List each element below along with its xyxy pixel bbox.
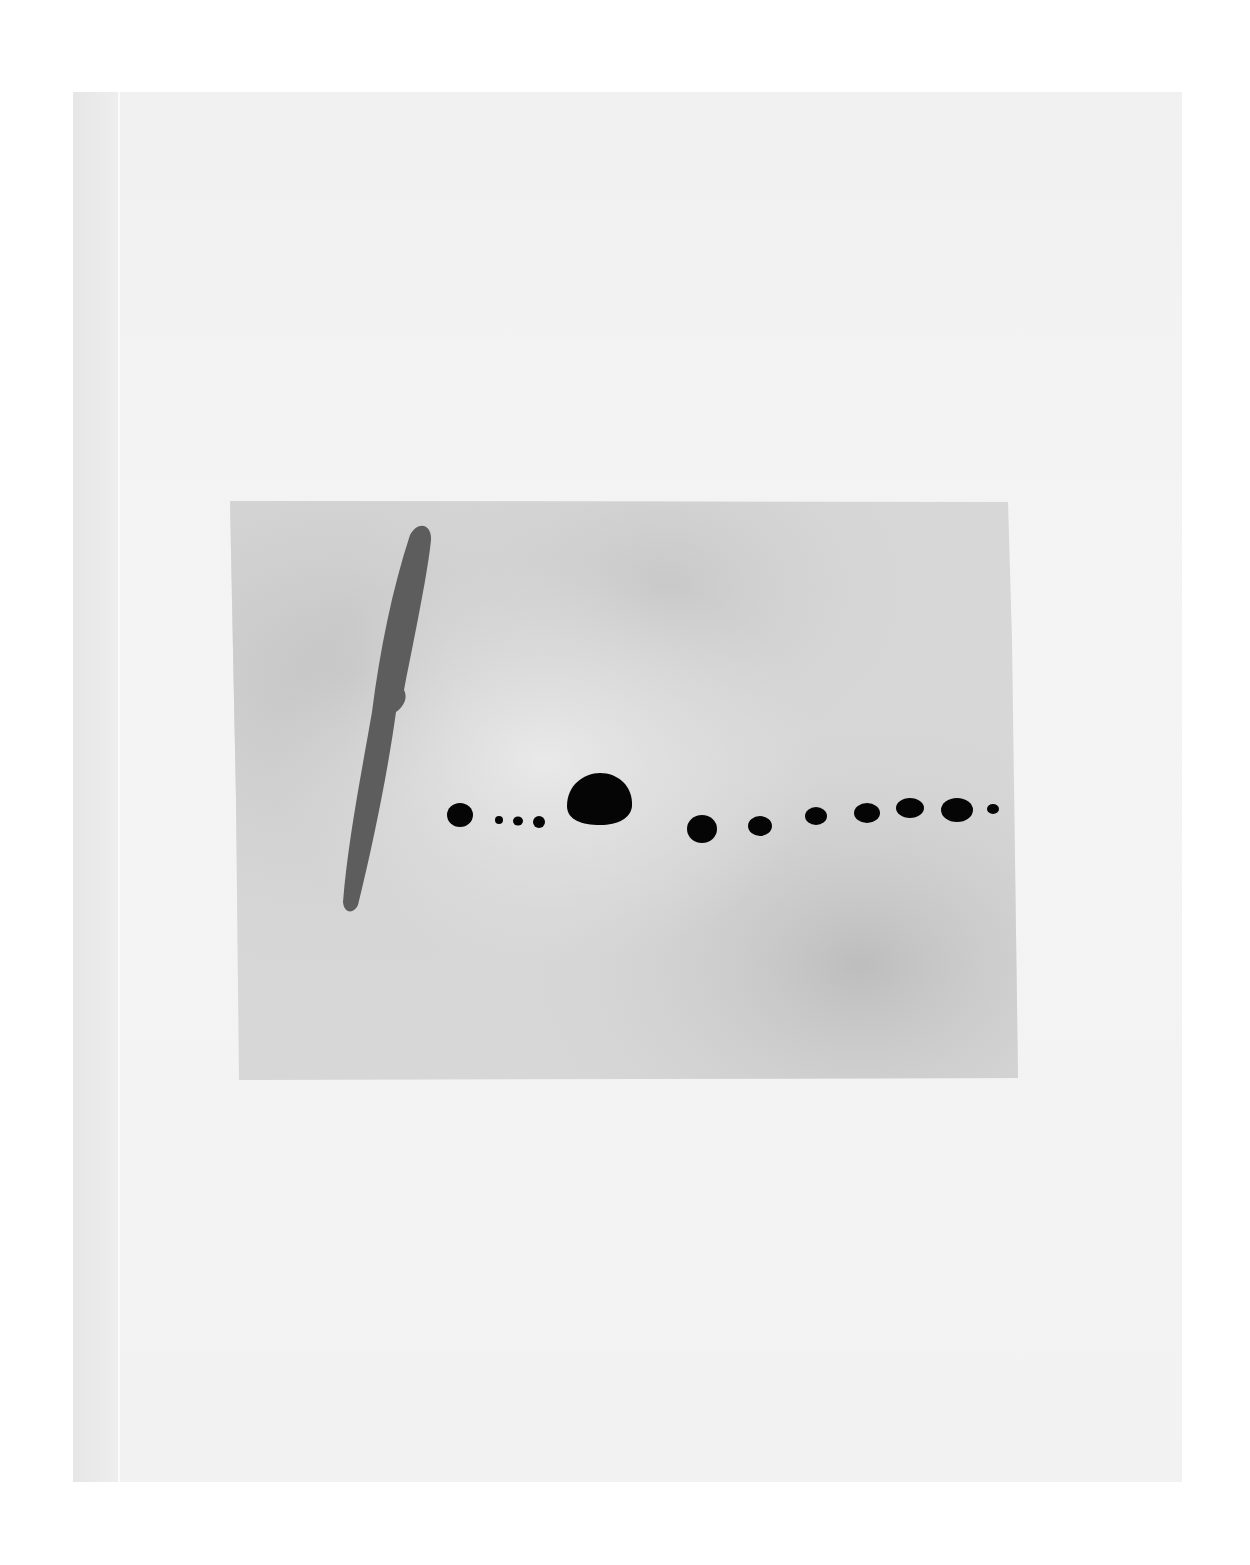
artwork-canvas: [0, 0, 1250, 1565]
dot: [687, 815, 717, 843]
dot: [495, 816, 503, 824]
dot: [987, 804, 999, 814]
dot: [805, 807, 827, 825]
dot: [896, 798, 924, 818]
dot: [513, 817, 523, 826]
dot: [447, 803, 473, 827]
dot: [854, 803, 880, 823]
dot: [941, 798, 973, 822]
dot: [748, 816, 772, 836]
dot: [533, 816, 545, 828]
